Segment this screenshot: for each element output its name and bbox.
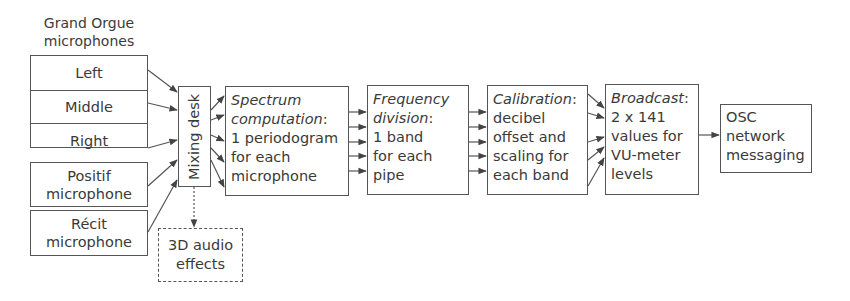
connector-arrows <box>0 0 850 301</box>
